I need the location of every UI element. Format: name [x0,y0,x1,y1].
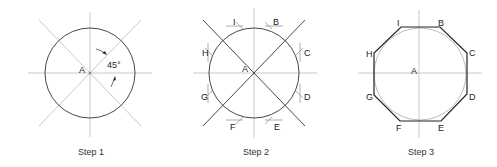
step-caption: Step 3 [408,147,434,157]
point-label-h: H [202,48,209,58]
point-label-g: G [201,92,208,102]
center-label: A [79,65,85,75]
step-2: I B C D E F G H A Step 2 [193,8,317,157]
step-1: A 45° Step 1 [28,12,152,157]
center-point [89,72,92,75]
point-label-f: F [230,122,236,132]
octagon-construction-diagram: A 45° Step 1 I B C D E F G H A Step 2 [0,0,497,167]
point-label-c: C [469,48,476,58]
arrowhead-icon [113,76,116,81]
step-caption: Step 2 [243,147,269,157]
circle [374,28,466,120]
angle-label: 45° [107,60,121,70]
point-label-d: D [304,92,311,102]
step-3: I B C D E F G H A Step 3 [358,10,482,157]
point-label-b: B [273,17,279,27]
point-label-b: B [438,18,444,28]
point-label-d: D [469,92,476,102]
center-label: A [411,66,417,76]
step-caption: Step 1 [78,147,104,157]
point-label-e: E [274,122,280,132]
point-label-i: I [397,18,400,28]
center-label: A [242,64,248,74]
point-label-f: F [396,123,402,133]
point-label-c: C [304,48,311,58]
point-label-e: E [438,123,444,133]
point-label-g: G [366,92,373,102]
point-label-i: I [233,17,236,27]
point-label-h: H [366,49,373,59]
